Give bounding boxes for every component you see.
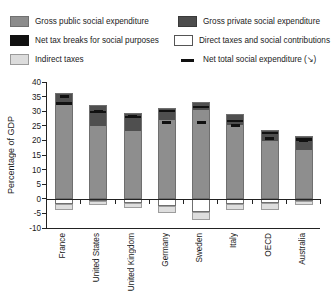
legend-item-indirect-taxes: Indirect taxes [10, 54, 178, 65]
y-axis-tick: -10 [19, 224, 46, 233]
legend-label: Net tax breaks for social purposes [35, 35, 159, 46]
segment-indirect-taxes [261, 203, 279, 209]
segment-net-tax-breaks [159, 110, 175, 112]
segment-gross-public [296, 150, 312, 198]
negative-stacked-bar[interactable] [192, 199, 210, 220]
segment-indirect-taxes [226, 204, 244, 210]
positive-stacked-bar[interactable] [226, 114, 244, 199]
segment-indirect-taxes [89, 201, 107, 205]
net-total-marker [299, 139, 308, 142]
net-total-dash-icon [178, 54, 197, 65]
net-total-marker [128, 115, 137, 118]
x-axis-tick [115, 199, 116, 204]
segment-direct-taxes [192, 199, 210, 212]
x-axis-tick [217, 199, 218, 204]
segment-net-tax-breaks [193, 106, 209, 108]
y-axis-tick: 25 [19, 121, 46, 130]
legend-item-gross-public: Gross public social expenditure [10, 16, 178, 27]
segment-indirect-taxes [192, 212, 210, 220]
segment-net-tax-breaks [262, 132, 278, 134]
x-axis-line [46, 228, 320, 229]
x-axis-tick [286, 199, 287, 204]
bar-group[interactable] [261, 82, 279, 228]
x-axis-tick [252, 199, 253, 204]
net-total-marker [162, 121, 171, 124]
plot-area [46, 82, 320, 228]
bars-container [47, 82, 320, 228]
y-axis-tick: 0 [19, 194, 46, 203]
net-total-marker [60, 95, 69, 98]
y-axis-tick: 40 [19, 78, 46, 87]
legend-item-direct-taxes: Direct taxes and social contributions [174, 35, 330, 46]
bar-group[interactable] [55, 82, 73, 228]
legend-item-net-total: Net total social expenditure (↘) [178, 54, 316, 65]
x-axis-tick [183, 199, 184, 204]
bar-group[interactable] [192, 82, 210, 228]
net-tax-breaks-swatch-icon [10, 35, 29, 46]
y-axis-tick: 20 [19, 136, 46, 145]
chart-legend: Gross public social expenditure Gross pr… [10, 14, 330, 71]
negative-stacked-bar[interactable] [226, 199, 244, 210]
negative-stacked-bar[interactable] [55, 199, 73, 211]
legend-label: Net total social expenditure (↘) [203, 54, 316, 65]
segment-indirect-taxes [55, 204, 73, 211]
x-axis-label: United States [92, 233, 101, 282]
gross-private-swatch-icon [178, 16, 197, 27]
y-axis-tick: 30 [19, 107, 46, 116]
positive-stacked-bar[interactable] [295, 136, 313, 199]
legend-label: Direct taxes and social contributions [199, 35, 330, 46]
bar-group[interactable] [89, 82, 107, 228]
segment-gross-public [159, 120, 175, 197]
bar-group[interactable] [124, 82, 142, 228]
negative-stacked-bar[interactable] [158, 199, 176, 214]
x-axis-tick [80, 199, 81, 204]
positive-stacked-bar[interactable] [89, 105, 107, 199]
bar-group[interactable] [226, 82, 244, 228]
net-total-marker [265, 137, 274, 140]
y-axis-tick: 5 [19, 180, 46, 189]
x-axis-label: United Kingdom [127, 233, 136, 291]
positive-stacked-bar[interactable] [261, 130, 279, 199]
x-axis-label: Australia [298, 233, 307, 265]
segment-indirect-taxes [295, 201, 313, 205]
bar-group[interactable] [295, 82, 313, 228]
y-axis-label-text: Percentage of GDP [6, 116, 16, 194]
segment-gross-public [262, 141, 278, 198]
positive-stacked-bar[interactable] [55, 93, 73, 199]
segment-indirect-taxes [158, 206, 176, 213]
chart-figure: Gross public social expenditure Gross pr… [0, 0, 336, 303]
legend-row: Indirect taxes Net total social expendit… [10, 52, 330, 67]
segment-net-tax-breaks [56, 102, 72, 105]
positive-stacked-bar[interactable] [124, 113, 142, 199]
net-total-marker [94, 110, 103, 113]
segment-indirect-taxes [124, 203, 142, 208]
x-axis-label: Italy [229, 233, 238, 248]
gross-public-swatch-icon [10, 16, 29, 27]
direct-taxes-swatch-icon [174, 35, 193, 46]
x-axis-tick [149, 199, 150, 204]
segment-net-tax-breaks [227, 120, 243, 122]
y-axis-tick: 15 [19, 151, 46, 160]
bar-group[interactable] [158, 82, 176, 228]
negative-stacked-bar[interactable] [261, 199, 279, 210]
y-axis-tick: -5 [19, 209, 46, 218]
y-axis-tick: 35 [19, 92, 46, 101]
indirect-taxes-swatch-icon [10, 54, 29, 65]
legend-row: Gross public social expenditure Gross pr… [10, 14, 330, 29]
legend-label: Gross private social expenditure [203, 16, 320, 27]
net-total-marker [197, 121, 206, 124]
x-axis-tick [320, 199, 321, 204]
legend-item-net-tax-breaks: Net tax breaks for social purposes [10, 35, 174, 46]
net-total-marker [231, 124, 240, 127]
segment-gross-public [125, 131, 141, 198]
x-axis-label: Sweden [195, 233, 204, 263]
segment-gross-public [90, 126, 106, 198]
legend-label: Indirect taxes [35, 54, 84, 65]
x-axis-label: Germany [161, 233, 170, 267]
positive-stacked-bar[interactable] [192, 102, 210, 198]
legend-item-gross-private: Gross private social expenditure [178, 16, 320, 27]
positive-stacked-bar[interactable] [158, 108, 176, 199]
x-axis-label: OECD [264, 233, 273, 257]
x-axis-label: France [58, 233, 67, 258]
segment-gross-public [227, 125, 243, 198]
